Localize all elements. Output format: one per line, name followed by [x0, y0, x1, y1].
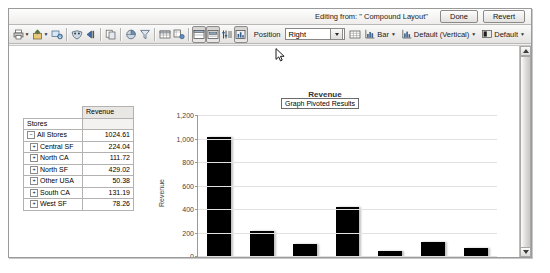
pivot-row-label-text: North SF	[40, 166, 68, 173]
sort-button[interactable]	[220, 26, 234, 43]
chart-y-axis-label: Revenue	[158, 179, 165, 207]
pivot-value-cell: 78.26	[83, 199, 134, 211]
analytics-editor-window: Editing from: " Compound Layout" Done Re…	[8, 8, 532, 258]
table-row[interactable]: +West SF78.26	[24, 199, 134, 211]
tooltip: Graph Pivoted Results	[281, 98, 359, 109]
toolbar-separator	[120, 28, 122, 41]
chevron-down-icon: ▼	[391, 32, 396, 37]
graph-pivoted-results-button[interactable]	[234, 26, 248, 43]
toolbar-separator	[154, 28, 156, 41]
pivot-row-label-text: Central SF	[40, 143, 73, 150]
grid-line: 400	[198, 209, 497, 210]
editor-header: Editing from: " Compound Layout" Done Re…	[9, 9, 531, 25]
grid-line: 1,000	[198, 139, 497, 140]
scroll-down-icon	[523, 250, 529, 254]
table-row[interactable]: +South CA131.19	[24, 187, 134, 199]
revert-button[interactable]: Revert	[483, 10, 525, 23]
pivot-row-label[interactable]: +West SF	[24, 199, 83, 211]
scrollbar-thumb[interactable]	[520, 56, 531, 248]
funnel-button[interactable]	[138, 26, 152, 43]
position-select[interactable]: Right	[285, 28, 346, 40]
pivot-row-label[interactable]: +North CA	[24, 153, 83, 165]
chevron-down-icon: ▼	[471, 32, 476, 37]
table-row[interactable]: +North CA111.72	[24, 153, 134, 165]
chart-type-label: Bar	[377, 30, 389, 39]
pivot-row-label-text: North CA	[40, 154, 69, 161]
download-icon	[51, 29, 63, 40]
copy-table-button[interactable]	[172, 26, 186, 43]
expand-icon[interactable]: +	[30, 154, 38, 162]
chart-bar[interactable]	[207, 137, 231, 257]
grid-toggle-button[interactable]	[348, 26, 362, 43]
move-left-button[interactable]	[84, 26, 98, 43]
mask-button[interactable]	[70, 26, 84, 43]
pie-chart-button[interactable]	[124, 26, 138, 43]
pivot-row-label-text: South CA	[40, 189, 70, 196]
duplicate-button[interactable]	[104, 26, 118, 43]
copy-table-icon	[173, 29, 185, 40]
chart-bar-cell: Central SF	[241, 116, 284, 257]
download-button[interactable]	[50, 26, 64, 43]
print-button[interactable]: ▼	[12, 26, 31, 43]
grid-line: 800	[198, 162, 497, 163]
expand-icon[interactable]: +	[30, 177, 38, 185]
graph-pivoted-results-icon	[235, 29, 247, 40]
section-icon	[207, 29, 219, 40]
y-axis-tick-label: 400	[182, 206, 194, 213]
collapse-icon[interactable]: −	[27, 131, 35, 139]
grid-line: 1,200	[198, 115, 497, 116]
layout-icon	[193, 29, 205, 40]
pivot-row-header: Stores	[24, 118, 83, 130]
expand-icon[interactable]: +	[30, 189, 38, 197]
chart-bar-cell: North CA	[283, 116, 326, 257]
grid-line: 600	[198, 186, 497, 187]
pie-icon	[125, 29, 137, 40]
chart-plot-area: All StoresCentral SFNorth CANorth SFOthe…	[197, 116, 497, 257]
table-row[interactable]: +North SF429.02	[24, 164, 134, 176]
done-button[interactable]: Done	[440, 10, 478, 23]
table-button[interactable]	[158, 26, 172, 43]
export-icon	[32, 29, 43, 40]
chart-style-dropdown[interactable]: Default (Vertical) ▼	[399, 28, 479, 40]
export-button[interactable]: ▼	[31, 26, 50, 43]
chart-bar[interactable]	[250, 231, 274, 257]
scroll-up-button[interactable]	[520, 46, 531, 56]
y-axis-tick-label: 1,200	[176, 112, 194, 119]
pivot-row-label[interactable]: −All Stores	[24, 130, 83, 142]
pivot-row-label[interactable]: +Central SF	[24, 141, 83, 153]
chart-theme-label: Default	[494, 30, 518, 39]
pivot-blank-cell	[83, 118, 134, 130]
layout-button[interactable]	[192, 26, 206, 43]
position-label: Position	[254, 30, 281, 39]
print-icon	[13, 29, 24, 40]
scroll-down-button[interactable]	[520, 247, 531, 257]
theme-swatch-icon	[482, 29, 492, 39]
chart-style-label: Default (Vertical)	[414, 30, 469, 39]
chevron-down-icon: ▼	[24, 32, 29, 37]
y-axis-tick-label: 200	[182, 229, 194, 236]
toolbar-separator	[188, 28, 190, 41]
pivot-value-cell: 224.04	[83, 141, 134, 153]
y-axis-tick-label: 0	[190, 253, 194, 258]
grid-line: 200	[198, 233, 497, 234]
expand-icon[interactable]: +	[30, 143, 38, 151]
chevron-down-icon[interactable]	[330, 28, 343, 40]
table-row[interactable]: −All Stores1024.61	[24, 130, 134, 142]
table-row[interactable]: +Other USA50.38	[24, 176, 134, 188]
section-button[interactable]	[206, 26, 220, 43]
table-row[interactable]: +Central SF224.04	[24, 141, 134, 153]
chart-theme-dropdown[interactable]: Default ▼	[479, 28, 528, 40]
expand-icon[interactable]: +	[30, 166, 38, 174]
pivot-measure-header: Revenue	[83, 107, 134, 119]
vertical-scrollbar[interactable]	[519, 46, 531, 257]
chart-type-dropdown[interactable]: Bar ▼	[362, 28, 399, 40]
pivot-row-label[interactable]: +Other USA	[24, 176, 83, 188]
pivot-row-label-text: West SF	[40, 200, 67, 207]
y-axis-tick-label: 600	[182, 182, 194, 189]
chart-bar[interactable]	[421, 242, 445, 257]
expand-icon[interactable]: +	[30, 200, 38, 208]
pivot-row-label[interactable]: +South CA	[24, 187, 83, 199]
pivot-row-label[interactable]: +North SF	[24, 164, 83, 176]
chart-bar-cell: All Stores	[198, 116, 241, 257]
y-axis-tick-label: 1,000	[176, 135, 194, 142]
